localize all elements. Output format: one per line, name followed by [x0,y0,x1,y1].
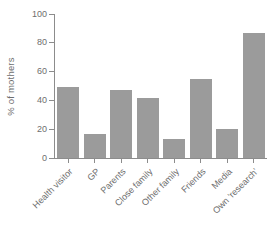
bar [243,33,265,158]
bar [137,98,159,158]
y-tick-label: 0 [21,154,47,163]
x-tick-mark [68,159,69,163]
x-tick-mark [227,159,228,163]
x-tick-mark [174,159,175,163]
y-tick-label: 40 [21,96,47,105]
bar [110,90,132,158]
y-tick-mark [49,158,54,159]
y-tick-mark [49,100,54,101]
x-category-label: Media [209,166,233,190]
x-tick-mark [121,159,122,163]
y-axis-title: % of mothers [2,14,18,158]
y-tick-mark [49,129,54,130]
x-tick-mark [200,159,201,163]
y-tick-label: 20 [21,125,47,134]
x-tick-mark [147,159,148,163]
plot-area: 020406080100 [54,14,267,159]
x-axis-labels: Health visitorGPParentsClose familyOther… [54,165,266,225]
bar [84,134,106,158]
bar [216,129,238,158]
y-tick-mark [49,71,54,72]
x-category-label: GP [85,166,101,182]
y-tick-label: 80 [21,38,47,47]
y-tick-label: 60 [21,67,47,76]
x-tick-mark [253,159,254,163]
x-category-label: Friends [179,166,207,194]
x-category-label: Health visitor [31,166,75,210]
bar-chart-figure: % of mothers 020406080100 Health visitor… [0,0,271,225]
bar [190,79,212,158]
bar [57,87,79,158]
x-tick-mark [94,159,95,163]
bar [163,139,185,158]
y-tick-mark [49,42,54,43]
y-tick-label: 100 [21,10,47,19]
y-tick-mark [49,14,54,15]
y-axis-title-text: % of mothers [5,57,16,115]
